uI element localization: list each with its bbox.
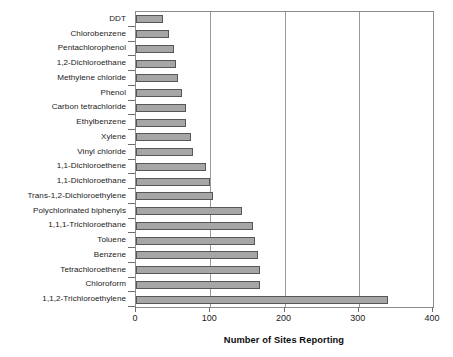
bar	[136, 266, 260, 274]
y-axis-tick	[128, 306, 135, 307]
category-label: Tetrachloroethene	[0, 265, 126, 274]
bar	[136, 281, 260, 289]
y-axis-tick	[128, 26, 135, 27]
category-label: Trans-1,2-Dichloroethylene	[0, 191, 126, 200]
y-axis-tick	[128, 188, 135, 189]
bar	[136, 89, 182, 97]
x-axis-tick-0	[135, 307, 136, 312]
bar	[136, 148, 193, 156]
category-label: 1,1,1-Trichloroethane	[0, 220, 126, 229]
y-axis-tick	[128, 247, 135, 248]
bar	[136, 237, 255, 245]
category-label: 1,1-Dichloroethene	[0, 161, 126, 170]
category-label: Toluene	[0, 235, 126, 244]
bar	[136, 296, 388, 304]
category-label: Xylene	[0, 132, 126, 141]
category-label: DDT	[0, 14, 126, 23]
category-label: 1,2-Dichloroethane	[0, 58, 126, 67]
bar	[136, 163, 206, 171]
y-axis-tick	[128, 114, 135, 115]
x-axis-tick-label: 300	[338, 313, 378, 324]
bar	[136, 104, 186, 112]
bar	[136, 178, 210, 186]
category-label: Pentachlorophenol	[0, 43, 126, 52]
category-label: Chloroform	[0, 279, 126, 288]
y-axis-tick	[128, 129, 135, 130]
bar	[136, 45, 174, 53]
category-label: Methylene chloride	[0, 73, 126, 82]
plot-area	[135, 11, 434, 308]
x-axis-tick-label: 400	[412, 313, 452, 324]
x-axis-tick-label: 200	[264, 313, 304, 324]
bar	[136, 60, 176, 68]
y-axis-tick	[128, 144, 135, 145]
y-axis-tick	[128, 218, 135, 219]
bar	[136, 15, 163, 23]
y-axis-tick	[128, 203, 135, 204]
category-label: Vinyl chloride	[0, 147, 126, 156]
bar	[136, 74, 178, 82]
x-axis-tick-400	[432, 307, 433, 312]
category-label: Phenol	[0, 88, 126, 97]
y-axis-tick	[128, 41, 135, 42]
y-axis-tick	[128, 277, 135, 278]
category-label: 1,1-Dichloroethane	[0, 176, 126, 185]
y-axis-tick	[128, 55, 135, 56]
category-label: Polychlorinated biphenyls	[0, 206, 126, 215]
y-axis-tick	[128, 173, 135, 174]
y-axis-tick	[128, 262, 135, 263]
x-axis-tick-label: 100	[189, 313, 229, 324]
bar	[136, 251, 258, 259]
y-axis-tick	[128, 291, 135, 292]
bar-chart: DDTChlorobenzenePentachlorophenol1,2-Dic…	[0, 0, 453, 357]
bar	[136, 207, 242, 215]
x-axis-tick-label: 0	[115, 313, 155, 324]
category-label: Benzene	[0, 250, 126, 259]
y-axis-tick	[128, 70, 135, 71]
x-axis-tick-300	[358, 307, 359, 312]
x-axis-tick-100	[209, 307, 210, 312]
category-label: Chlorobenzene	[0, 29, 126, 38]
category-label: 1,1,2-Trichloroethylene	[0, 294, 126, 303]
category-label: Carbon tetrachloride	[0, 102, 126, 111]
y-axis-tick	[128, 159, 135, 160]
bar	[136, 192, 213, 200]
y-axis-tick	[128, 85, 135, 86]
x-axis-title: Number of Sites Reporting	[135, 335, 433, 345]
bar	[136, 133, 191, 141]
bars-layer	[136, 12, 433, 307]
y-axis-tick	[128, 232, 135, 233]
x-axis-tick-200	[284, 307, 285, 312]
category-axis-labels: DDTChlorobenzenePentachlorophenol1,2-Dic…	[0, 11, 131, 306]
category-label: Ethylbenzene	[0, 117, 126, 126]
bar	[136, 222, 253, 230]
bar	[136, 30, 169, 38]
bar	[136, 119, 186, 127]
y-axis-tick	[128, 100, 135, 101]
